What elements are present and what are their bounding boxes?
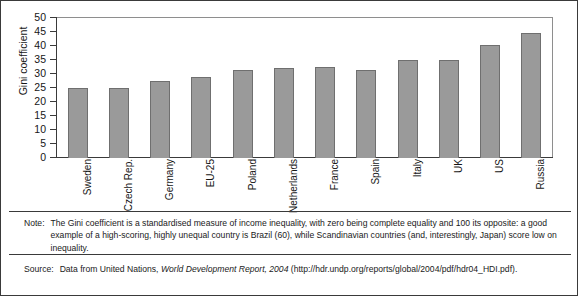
bar-series [57, 18, 552, 158]
y-tick-mark [50, 31, 56, 32]
x-tick-label: Poland [243, 159, 263, 190]
y-tick-mark [50, 115, 56, 116]
y-tick-label: 35 [8, 54, 46, 65]
note-text: The Gini coefficient is a standardised m… [51, 217, 558, 254]
y-tick-label: 0 [8, 152, 46, 163]
bar [356, 70, 376, 158]
bar [68, 88, 88, 158]
chart-panel: Gini coefficient 05101520253035404550 Sw… [8, 7, 572, 211]
source-text: Data from United Nations, World Developm… [60, 263, 558, 275]
x-tick-label: Czech Rep. [119, 159, 139, 211]
x-tick-label: US [490, 159, 510, 173]
y-axis-tick-labels: 05101520253035404550 [8, 7, 48, 168]
figure-container: Gini coefficient 05101520253035404550 Sw… [0, 0, 578, 296]
note-divider-bottom [9, 254, 571, 255]
y-tick-mark [50, 157, 56, 158]
x-tick-label: Italy [408, 159, 428, 177]
y-tick-label: 25 [8, 82, 46, 93]
x-tick-label: UK [449, 159, 469, 173]
y-tick-label: 15 [8, 110, 46, 121]
y-tick-mark [50, 59, 56, 60]
y-tick-mark [50, 129, 56, 130]
x-tick-label: Sweden [78, 159, 98, 195]
y-tick-label: 50 [8, 12, 46, 23]
source-block: Source: Data from United Nations, World … [24, 263, 558, 275]
y-tick-label: 40 [8, 40, 46, 51]
x-tick-label: Spain [366, 159, 386, 185]
source-suffix: (http://hdr.undp.org/reports/global/2004… [288, 264, 517, 274]
source-label: Source: [24, 263, 54, 275]
y-tick-label: 5 [8, 138, 46, 149]
bar [398, 60, 418, 158]
bar [274, 68, 294, 158]
y-tick-mark [50, 17, 56, 18]
bar [191, 77, 211, 158]
x-tick-label: EU-25 [201, 159, 221, 187]
bar [233, 70, 253, 158]
source-prefix: Data from United Nations, [60, 264, 161, 274]
y-tick-label: 20 [8, 96, 46, 107]
y-tick-mark [50, 73, 56, 74]
x-tick-label: Germany [160, 159, 180, 200]
y-tick-label: 30 [8, 68, 46, 79]
note-divider-top [9, 211, 571, 212]
y-tick-label: 45 [8, 26, 46, 37]
bar [439, 60, 459, 158]
bar [150, 81, 170, 158]
bar [315, 67, 335, 158]
source-title: World Development Report, 2004 [161, 264, 289, 274]
y-tick-label: 10 [8, 124, 46, 135]
y-tick-mark [50, 143, 56, 144]
x-tick-label: France [325, 159, 345, 190]
y-tick-mark [50, 87, 56, 88]
y-tick-mark [50, 101, 56, 102]
x-axis-tick-labels: SwedenCzech Rep.GermanyEU-25PolandNether… [57, 159, 552, 211]
bar [480, 45, 500, 158]
x-tick-label: Netherlands [284, 159, 304, 213]
y-tick-mark [50, 45, 56, 46]
bar [109, 88, 129, 158]
note-label: Note: [24, 217, 45, 229]
x-tick-label: Russia [531, 159, 551, 190]
note-block: Note: The Gini coefficient is a standard… [24, 217, 558, 254]
bar [521, 33, 541, 158]
